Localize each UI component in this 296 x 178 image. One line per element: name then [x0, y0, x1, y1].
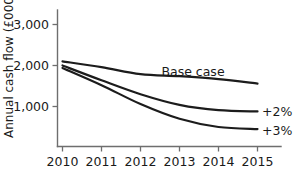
- x-tick-label-2011: 2011: [86, 154, 118, 169]
- y-tick-label-3000: 3,000: [13, 17, 49, 32]
- chart-figure: Annual cash flow (£000) 3,000 2,000 1,00…: [0, 0, 296, 178]
- y-tick-label-1000: 1,000: [13, 99, 49, 114]
- x-tick-label-2010: 2010: [47, 154, 79, 169]
- series-label-plus-2pct: +2%: [262, 104, 292, 119]
- y-tick-label-2000: 2,000: [13, 58, 49, 73]
- x-tick-label-2014: 2014: [203, 154, 235, 169]
- line-chart: Annual cash flow (£000) 3,000 2,000 1,00…: [0, 0, 296, 178]
- series-line-plus-2pct: [63, 66, 258, 112]
- series-label-base-case: Base case: [161, 64, 224, 79]
- x-tick-label-2015: 2015: [242, 154, 274, 169]
- x-tick-label-2012: 2012: [125, 154, 157, 169]
- x-tick-label-2013: 2013: [164, 154, 196, 169]
- series-label-plus-3pct: +3%: [262, 123, 292, 138]
